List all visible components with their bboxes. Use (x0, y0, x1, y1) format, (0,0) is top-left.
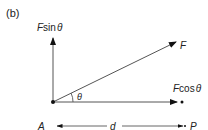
point-a-label: A (37, 121, 45, 130)
component-end-dot (181, 101, 184, 104)
horizontal-component-label: Fcosθ (173, 83, 202, 94)
vertical-component-label: Fsinθ (37, 22, 63, 33)
point-a-dot (51, 100, 55, 104)
point-p-dot (184, 125, 186, 127)
force-diagram: (b) Fsinθ F Fcosθ θ A d P (0, 0, 208, 130)
distance-label: d (110, 121, 116, 130)
force-label: F (180, 40, 187, 51)
angle-label: θ (77, 92, 82, 102)
angle-arc (71, 93, 73, 102)
panel-label: (b) (6, 7, 19, 19)
point-p-label: P (190, 121, 197, 130)
